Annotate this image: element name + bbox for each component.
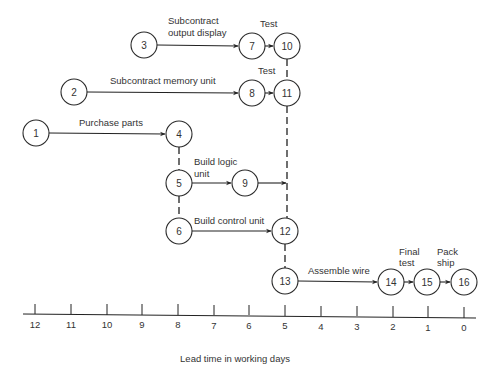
svg-text:14: 14: [385, 277, 397, 288]
label-purchase-parts: Purchase parts: [79, 117, 143, 128]
node-12: 12: [272, 218, 298, 244]
svg-text:2: 2: [71, 87, 77, 98]
label-subcontract-output-display: Subcontract: [168, 15, 219, 26]
svg-text:12: 12: [30, 319, 41, 330]
node-5: 5: [166, 170, 192, 196]
node-4: 4: [166, 121, 192, 147]
svg-text:0: 0: [461, 322, 466, 333]
node-3: 3: [131, 32, 157, 58]
node-15: 15: [414, 269, 440, 295]
node-11: 11: [274, 80, 300, 106]
node-13: 13: [272, 268, 298, 294]
svg-text:10: 10: [281, 41, 293, 52]
svg-text:1: 1: [425, 322, 430, 333]
node-6: 6: [166, 218, 192, 244]
label-test-mid: Test: [258, 65, 276, 76]
svg-text:9: 9: [242, 178, 248, 189]
svg-text:6: 6: [246, 320, 251, 331]
edge-2-8: [87, 92, 238, 93]
svg-text:15: 15: [421, 277, 433, 288]
svg-text:16: 16: [458, 277, 470, 288]
label-assemble-wire: Assemble wire: [308, 265, 370, 276]
node-10: 10: [274, 33, 300, 59]
node-9: 9: [232, 170, 258, 196]
label-build-logic-unit: Build logic: [194, 156, 238, 167]
edge-1-4: [49, 133, 165, 134]
node-8: 8: [239, 80, 265, 106]
label-subcontract-memory-unit: Subcontract memory unit: [110, 75, 216, 86]
svg-text:11: 11: [66, 319, 76, 330]
network-diagram: 1 2 3 4 5 6 7 8 9 10 11 12 13 14 15 16 S…: [0, 0, 499, 377]
time-axis-ticks: 12 11 10 9 8 7 6 5 4 3 2 1 0: [30, 304, 467, 333]
axis-title: Lead time in working days: [180, 353, 290, 364]
node-2: 2: [61, 79, 87, 105]
svg-text:11: 11: [282, 88, 293, 99]
svg-text:13: 13: [279, 276, 291, 287]
svg-text:9: 9: [139, 319, 144, 330]
svg-text:7: 7: [211, 320, 216, 331]
edge-13-14: [298, 281, 377, 282]
label-build-logic-unit-2: unit: [194, 168, 210, 179]
node-16: 16: [451, 269, 477, 295]
svg-text:3: 3: [141, 40, 147, 51]
label-final-test-2: test: [399, 257, 415, 268]
svg-text:7: 7: [249, 41, 255, 52]
svg-text:10: 10: [102, 319, 113, 330]
svg-text:2: 2: [390, 321, 395, 332]
svg-text:5: 5: [282, 320, 287, 331]
label-pack-ship: Pack: [437, 246, 458, 257]
label-subcontract-output-display-2: output display: [168, 27, 227, 38]
node-7: 7: [239, 33, 265, 59]
svg-text:4: 4: [176, 129, 182, 140]
label-final-test: Final: [399, 246, 420, 257]
node-14: 14: [378, 269, 404, 295]
svg-text:12: 12: [279, 226, 291, 237]
svg-text:3: 3: [354, 321, 359, 332]
edge-3-7: [157, 45, 238, 46]
svg-text:5: 5: [176, 178, 182, 189]
svg-text:6: 6: [176, 226, 182, 237]
label-test-top: Test: [260, 18, 278, 29]
svg-text:8: 8: [175, 319, 180, 330]
svg-text:4: 4: [318, 321, 323, 332]
label-pack-ship-2: ship: [437, 257, 454, 268]
svg-text:1: 1: [33, 128, 39, 139]
svg-text:8: 8: [249, 88, 255, 99]
node-1: 1: [23, 120, 49, 146]
label-build-control-unit: Build control unit: [194, 215, 265, 226]
